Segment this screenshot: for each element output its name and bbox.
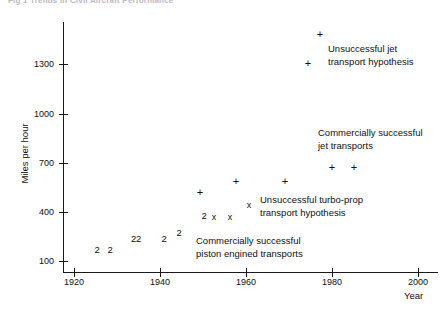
x-tick-label-1920: 1920: [52, 277, 96, 287]
data-point: 2: [94, 245, 99, 255]
data-point: 2: [201, 211, 206, 221]
y-tick-400: [59, 212, 68, 213]
x-tick-label-1980: 1980: [310, 277, 354, 287]
data-point: 2: [107, 245, 112, 255]
x-tick-2000: [418, 268, 419, 277]
x-tick-label-2000: 2000: [396, 277, 440, 287]
data-point: +: [351, 162, 357, 172]
x-tick-1940: [160, 268, 161, 277]
data-point: +: [317, 29, 323, 39]
x-tick-1980: [332, 268, 333, 277]
x-tick-1960: [246, 268, 247, 277]
y-axis-line: [63, 22, 64, 273]
x-tick-label-1960: 1960: [224, 277, 268, 287]
y-tick-label-100: 100: [14, 256, 54, 266]
x-axis-title: Year: [404, 290, 423, 301]
annotation-piston-line1: Commercially successful: [196, 235, 301, 248]
data-point: x: [247, 200, 252, 210]
data-point: 22: [131, 234, 141, 244]
x-tick-label-1940: 1940: [138, 277, 182, 287]
y-tick-label-1300: 1300: [14, 59, 54, 69]
annotation-unsuccessful-jet-line2: transport hypothesis: [328, 56, 414, 69]
annotation-turbo-prop-line1: Unsuccessful turbo-prop: [260, 194, 363, 207]
data-point: 2: [176, 228, 181, 238]
annotation-jet-transports-line1: Commercially successful: [318, 127, 423, 140]
data-point: +: [197, 187, 203, 197]
y-axis-title: Miles per hour: [19, 106, 30, 202]
y-tick-1300: [59, 64, 68, 65]
annotation-turbo-prop-line2: transport hypothesis: [260, 207, 346, 220]
annotation-piston-line2: piston engined transports: [196, 248, 303, 261]
y-tick-700: [59, 163, 68, 164]
annotation-unsuccessful-jet-line1: Unsuccessful jet: [328, 43, 397, 56]
chart-figure: Fig 1 Trends in Civil Aircraft Performan…: [0, 0, 444, 314]
annotation-jet-transports-line2: jet transports: [318, 140, 373, 153]
x-tick-1920: [74, 268, 75, 277]
y-tick-1000: [59, 114, 68, 115]
data-point: x: [228, 212, 233, 222]
data-point: +: [305, 58, 311, 68]
data-point: x: [212, 212, 217, 222]
data-point: 2: [161, 234, 166, 244]
y-tick-100: [59, 261, 68, 262]
y-tick-label-400: 400: [14, 207, 54, 217]
data-point: +: [329, 162, 335, 172]
data-point: +: [282, 176, 288, 186]
clipped-figure-caption: Fig 1 Trends in Civil Aircraft Performan…: [8, 0, 268, 6]
data-point: +: [233, 176, 239, 186]
x-axis-line: [63, 272, 438, 273]
